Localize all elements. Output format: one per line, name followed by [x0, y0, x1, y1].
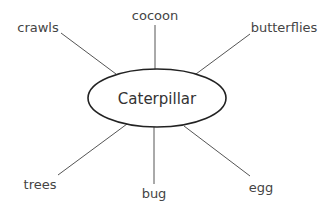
node-label-egg: egg	[249, 180, 274, 195]
spoke-trees	[58, 124, 127, 175]
spoke-crawls	[61, 33, 116, 74]
spoke-egg	[184, 126, 250, 176]
node-label-butterflies: butterflies	[251, 20, 318, 35]
center-label: Caterpillar	[118, 90, 197, 108]
concept-web-diagram: Caterpillar cocoon crawls butterflies tr…	[0, 0, 332, 213]
node-label-trees: trees	[24, 177, 57, 192]
spoke-butterflies	[196, 34, 250, 74]
node-label-bug: bug	[142, 186, 167, 201]
node-label-crawls: crawls	[17, 20, 59, 35]
node-label-cocoon: cocoon	[132, 8, 178, 23]
